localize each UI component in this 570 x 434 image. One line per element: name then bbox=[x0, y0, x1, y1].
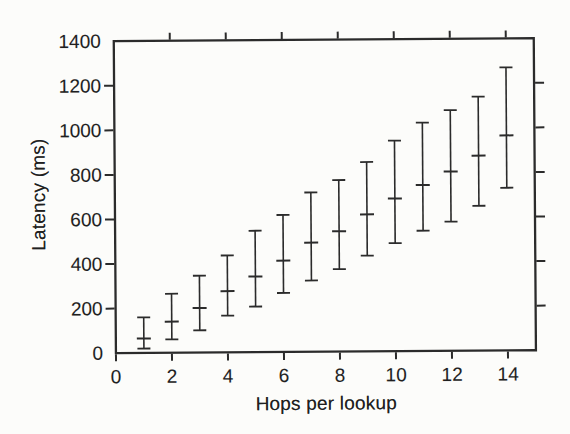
x-tick-label: 0 bbox=[111, 366, 122, 387]
error-bar-line bbox=[283, 215, 284, 293]
x-tick-label: 8 bbox=[335, 365, 346, 386]
error-bar-line bbox=[311, 192, 312, 280]
y-tick-label: 1400 bbox=[58, 31, 100, 52]
error-bar-line bbox=[339, 180, 340, 269]
y-axis-label: Latency (ms) bbox=[27, 139, 50, 251]
x-tick-label: 14 bbox=[497, 363, 519, 384]
y-tick-label: 1000 bbox=[59, 120, 101, 141]
x-tick-label: 12 bbox=[441, 364, 462, 385]
plot-area: 024681012140200400600800100012001400 bbox=[0, 0, 570, 434]
error-bar-line bbox=[422, 123, 423, 231]
y-tick-label: 600 bbox=[70, 209, 102, 230]
y-tick-label: 0 bbox=[92, 343, 103, 364]
x-tick-label: 2 bbox=[167, 366, 178, 387]
error-bar-line bbox=[394, 141, 395, 244]
y-tick-label: 800 bbox=[70, 164, 102, 185]
error-bar-line bbox=[255, 231, 256, 307]
y-tick-label: 200 bbox=[71, 298, 103, 319]
error-bar-line bbox=[450, 110, 451, 221]
x-axis-label: Hops per lookup bbox=[256, 392, 398, 415]
error-bar-line bbox=[478, 97, 479, 206]
latency-vs-hops-chart: 024681012140200400600800100012001400 Hop… bbox=[0, 0, 570, 434]
x-tick-label: 6 bbox=[279, 365, 290, 386]
error-bar-line bbox=[367, 162, 368, 256]
error-bar-line bbox=[506, 67, 507, 187]
y-tick-label: 1200 bbox=[59, 75, 101, 96]
axes-border bbox=[114, 38, 536, 353]
x-tick-label: 10 bbox=[385, 364, 406, 385]
x-tick-label: 4 bbox=[223, 365, 234, 386]
scanned-figure-page: 024681012140200400600800100012001400 Hop… bbox=[0, 0, 570, 434]
y-tick-label: 400 bbox=[71, 254, 103, 275]
